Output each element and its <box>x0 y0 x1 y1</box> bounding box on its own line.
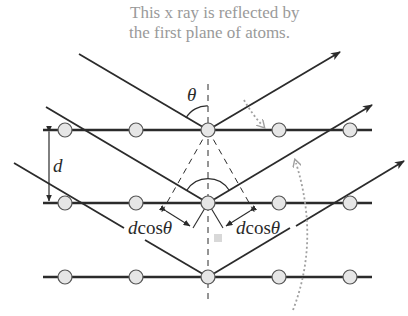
faded-mark <box>214 234 222 242</box>
atom <box>58 123 72 137</box>
atom <box>343 123 357 137</box>
ray-2-reflected <box>208 105 372 203</box>
ray-3-incident-upper <box>14 163 124 228</box>
spacing-d-label: d <box>53 155 63 177</box>
atom <box>343 270 357 284</box>
annotation-arrow-bottom <box>293 163 307 310</box>
atom <box>201 196 215 210</box>
atom <box>58 196 72 210</box>
atom <box>343 196 357 210</box>
caption-line-1: This x ray is reflected by <box>130 3 299 23</box>
atom <box>58 270 72 284</box>
ray-1-reflected <box>208 52 340 130</box>
atom <box>272 196 286 210</box>
atom <box>129 196 143 210</box>
atom <box>129 123 143 137</box>
theta-label: θ <box>187 84 196 106</box>
ray-3-incident-lower <box>145 240 208 277</box>
atom <box>201 123 215 137</box>
atom <box>272 123 286 137</box>
atom <box>272 270 286 284</box>
path-difference-left-label: dcosθ <box>128 217 172 239</box>
path-difference-right-label: dcosθ <box>236 217 280 239</box>
atom <box>129 270 143 284</box>
atom <box>201 270 215 284</box>
ray-2-incident <box>46 107 208 203</box>
x-rays <box>14 52 404 277</box>
ray-3-reflected-upper <box>296 161 404 226</box>
caption-line-2: the first plane of atoms. <box>129 23 290 43</box>
theta-arc <box>186 106 208 118</box>
